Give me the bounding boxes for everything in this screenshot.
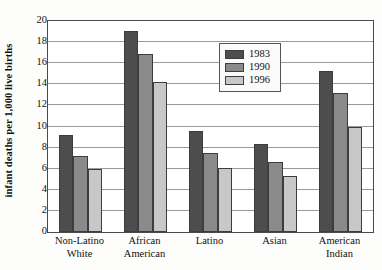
x-category-label-line2: Indian: [307, 247, 372, 260]
legend-label: 1990: [249, 62, 270, 73]
y-tick-label: 12: [25, 99, 47, 110]
bar: [203, 153, 218, 232]
y-axis-title: infant deaths per 1,000 live births: [0, 0, 18, 240]
plot-area: [47, 20, 374, 233]
legend: 198319901996: [219, 43, 281, 92]
bar: [189, 131, 204, 232]
bar: [88, 169, 103, 232]
x-category-label: Latino: [177, 234, 242, 247]
legend-swatch-icon: [225, 63, 244, 72]
legend-swatch-icon: [225, 76, 244, 85]
x-category-label-line1: Latino: [196, 235, 223, 246]
bar: [138, 54, 153, 232]
x-category-label: AmericanIndian: [307, 234, 372, 260]
legend-swatch-icon: [225, 50, 244, 59]
bar: [333, 93, 348, 232]
legend-label: 1983: [249, 49, 270, 60]
bar: [153, 82, 168, 232]
x-category-label: Non-LatinoWhite: [47, 234, 112, 260]
x-category-label-line1: Non-Latino: [55, 235, 104, 246]
legend-item: 1996: [225, 74, 275, 87]
x-category-label-line2: American: [112, 247, 177, 260]
bar: [73, 156, 88, 232]
y-tick-label: 16: [25, 57, 47, 68]
gridline: [48, 41, 373, 42]
legend-item: 1990: [225, 61, 275, 74]
x-category-label-line2: White: [47, 247, 112, 260]
gridline: [48, 62, 373, 63]
bar: [283, 176, 298, 232]
bar: [59, 135, 74, 232]
y-tick-label: 18: [25, 36, 47, 47]
legend-item: 1983: [225, 48, 275, 61]
y-tick-label: 4: [25, 184, 47, 195]
bar-chart: infant deaths per 1,000 live births 0246…: [0, 0, 382, 270]
y-tick-label: 0: [25, 226, 47, 237]
y-tick-label: 2: [25, 205, 47, 216]
bar: [254, 144, 269, 232]
x-category-label-line1: Asian: [262, 235, 287, 246]
x-category-label-line1: African: [128, 235, 160, 246]
legend-label: 1996: [249, 75, 270, 86]
bar: [124, 31, 139, 233]
y-tick-label: 10: [25, 120, 47, 131]
y-tick-label: 8: [25, 141, 47, 152]
bar: [319, 71, 334, 232]
y-tick-label: 20: [25, 15, 47, 26]
y-tick-label: 6: [25, 162, 47, 173]
x-category-label: Asian: [242, 234, 307, 247]
y-tick-label: 14: [25, 78, 47, 89]
x-category-label: AfricanAmerican: [112, 234, 177, 260]
x-category-label-line1: American: [319, 235, 360, 246]
bar: [348, 127, 363, 233]
bar: [218, 168, 233, 232]
bar: [268, 162, 283, 232]
x-axis-category-labels: Non-LatinoWhiteAfricanAmericanLatinoAsia…: [47, 234, 372, 270]
y-axis-title-text: infant deaths per 1,000 live births: [4, 43, 15, 197]
